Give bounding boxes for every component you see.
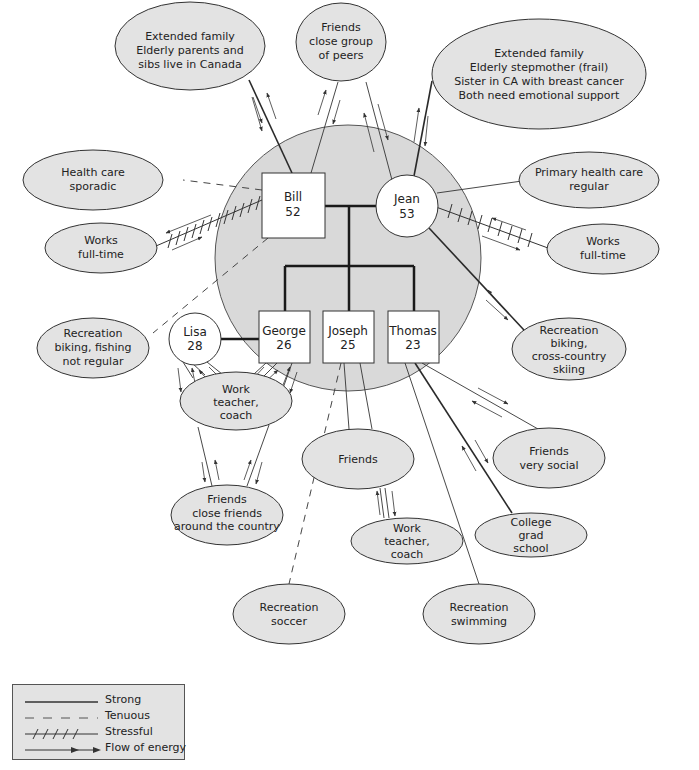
legend-label: Tenuous: [105, 709, 150, 722]
svg-text:Works: Works: [586, 235, 620, 248]
family-member-bill: Bill 52: [262, 173, 325, 238]
line-thomas-college: [415, 363, 512, 513]
svg-text:of peers: of peers: [319, 49, 364, 62]
resource-friends-joseph: Friends: [302, 429, 414, 489]
flow-arrow: [472, 401, 502, 417]
svg-text:Elderly parents and: Elderly parents and: [136, 44, 243, 57]
tenuous-line-icon: [23, 712, 103, 724]
line-george-work: [254, 363, 266, 374]
flow-arrow: [414, 108, 419, 142]
resource-extended-family-bill: Extended family Elderly parents and sibs…: [115, 2, 265, 90]
line-work-friends: [198, 427, 212, 486]
resource-extended-family-jean: Extended family Elderly stepmother (frai…: [432, 19, 646, 129]
resource-recreation-bill: Recreation biking, fishing not regular: [37, 318, 149, 378]
svg-text:Health care: Health care: [61, 166, 125, 179]
flow-arrow: [377, 491, 380, 515]
svg-text:close friends: close friends: [192, 507, 262, 520]
svg-text:regular: regular: [569, 180, 609, 193]
member-name: Joseph: [327, 324, 368, 338]
resource-primary-health-care: Primary health care regular: [519, 152, 659, 208]
member-name: Thomas: [388, 324, 437, 338]
flow-arrow: [462, 446, 476, 471]
flow-arrow: [267, 93, 276, 119]
member-name: Lisa: [183, 325, 207, 339]
svg-text:Elderly stepmother (frail): Elderly stepmother (frail): [470, 61, 608, 74]
member-name: Bill: [284, 190, 302, 204]
family-member-thomas: Thomas 23: [388, 311, 439, 363]
svg-text:Extended family: Extended family: [145, 30, 235, 43]
svg-text:teacher,: teacher,: [384, 535, 430, 548]
svg-text:full-time: full-time: [78, 248, 124, 261]
member-name: Jean: [393, 192, 420, 206]
member-age: 28: [187, 339, 202, 353]
svg-text:Work: Work: [393, 522, 421, 535]
stressful-line-icon: [23, 728, 103, 740]
flow-arrow: [178, 368, 181, 392]
resource-recreation-swimming: Recreation swimming: [423, 584, 535, 644]
legend-label: Strong: [105, 693, 141, 706]
svg-text:Friends: Friends: [529, 445, 569, 458]
family-member-joseph: Joseph 25: [323, 311, 374, 363]
svg-text:not regular: not regular: [63, 355, 124, 368]
svg-text:Recreation: Recreation: [64, 327, 123, 340]
legend: Strong Tenuous Stressful Flow of energy: [12, 684, 185, 760]
resource-friends-george-lisa: Friends close friends around the country: [171, 485, 283, 545]
svg-text:Works: Works: [84, 234, 118, 247]
svg-text:full-time: full-time: [580, 249, 626, 262]
svg-text:Friends: Friends: [207, 493, 247, 506]
legend-item-stressful: Stressful: [13, 725, 186, 741]
family-member-lisa: Lisa 28: [169, 313, 221, 365]
svg-text:sibs live in Canada: sibs live in Canada: [138, 58, 241, 71]
member-name: George: [262, 324, 306, 338]
svg-text:very social: very social: [519, 459, 578, 472]
flow-arrow: [256, 462, 262, 484]
svg-text:Sister in CA with breast cance: Sister in CA with breast cancer: [454, 75, 624, 88]
svg-text:Friends: Friends: [338, 453, 378, 466]
svg-text:coach: coach: [391, 548, 424, 561]
ecomap-diagram: Bill 52 Jean 53 George 26 Joseph 25 Thom…: [0, 0, 699, 770]
resource-work-joseph: Work teacher, coach: [351, 518, 463, 564]
svg-text:Friends: Friends: [321, 21, 361, 34]
svg-text:sporadic: sporadic: [70, 180, 117, 193]
resource-recreation-soccer: Recreation soccer: [233, 584, 345, 644]
flow-arrow: [318, 90, 326, 115]
line-thomas-friends: [422, 363, 538, 429]
family-member-george: George 26: [259, 311, 310, 363]
svg-text:grad: grad: [518, 529, 543, 542]
member-age: 53: [399, 207, 414, 221]
flow-arrow: [253, 97, 262, 123]
flow-arrow: [202, 462, 205, 482]
legend-item-tenuous: Tenuous: [13, 709, 186, 725]
family-member-jean: Jean 53: [376, 175, 438, 237]
flow-arrow: [333, 100, 340, 124]
resource-recreation-jean: Recreation biking, cross-country skiing: [512, 318, 626, 380]
legend-label: Flow of energy: [105, 741, 186, 754]
legend-item-flow: Flow of energy: [13, 741, 186, 757]
svg-text:teacher,: teacher,: [213, 396, 259, 409]
svg-text:Both need emotional support: Both need emotional support: [459, 89, 621, 102]
svg-text:Primary health care: Primary health care: [535, 166, 643, 179]
svg-text:biking,: biking,: [551, 337, 588, 350]
member-age: 52: [285, 205, 300, 219]
flow-arrow: [492, 218, 526, 230]
flow-arrow: [478, 388, 508, 404]
resource-works-bill: Works full-time: [45, 223, 157, 273]
line-friends-work: [380, 488, 384, 518]
svg-text:College: College: [510, 516, 551, 529]
flow-arrow: [482, 236, 520, 250]
svg-text:coach: coach: [220, 409, 253, 422]
member-age: 26: [276, 338, 291, 352]
svg-text:school: school: [513, 542, 548, 555]
svg-text:Recreation: Recreation: [540, 324, 599, 337]
svg-text:Extended family: Extended family: [494, 47, 584, 60]
svg-text:swimming: swimming: [451, 615, 507, 628]
svg-text:soccer: soccer: [271, 615, 307, 628]
resource-college-thomas: College grad school: [475, 513, 587, 557]
resource-works-jean: Works full-time: [547, 224, 659, 274]
flow-arrow: [215, 460, 219, 480]
svg-text:Work: Work: [222, 383, 250, 396]
svg-text:cross-country: cross-country: [532, 350, 607, 363]
legend-item-strong: Strong: [13, 693, 186, 709]
resource-friends-thomas: Friends very social: [493, 428, 605, 488]
flow-arrow: [425, 116, 428, 146]
